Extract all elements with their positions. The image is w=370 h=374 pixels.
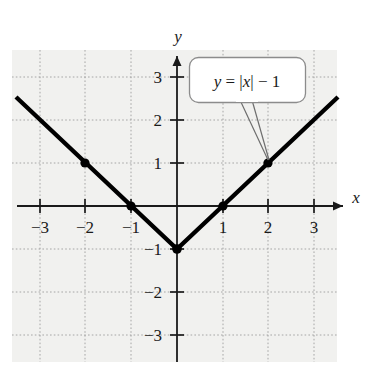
graph-figure: −3 −2 −1 1 2 3 3 2 1 −1 −2 −3 x y [0, 0, 370, 374]
x-axis-label: x [351, 188, 360, 207]
x-tick-label-1: 1 [219, 218, 228, 237]
equation-part-one: 1 [272, 72, 281, 91]
y-tick-label--2: −2 [144, 283, 162, 302]
y-tick-label--3: −3 [144, 326, 162, 345]
x-tick-label-3: 3 [310, 218, 319, 237]
y-tick-label--1: −1 [144, 240, 162, 259]
equation-part-minus: − [254, 72, 272, 91]
point-marker [172, 244, 182, 254]
x-tick-label--2: −2 [76, 218, 94, 237]
equation-part-equals: = [221, 72, 239, 91]
y-tick-label-3: 3 [154, 68, 163, 87]
y-tick-label-1: 1 [154, 154, 163, 173]
equation-part-y: y [212, 72, 222, 91]
x-tick-label--3: −3 [31, 218, 49, 237]
callout-tail-mask [236, 94, 258, 102]
x-tick-label-2: 2 [264, 218, 273, 237]
x-tick-label--1: −1 [122, 218, 140, 237]
absolute-value-graph: −3 −2 −1 1 2 3 3 2 1 −1 −2 −3 x y [0, 0, 370, 374]
point-marker [80, 158, 89, 167]
y-axis-label: y [172, 27, 182, 46]
point-marker [218, 201, 227, 210]
equation-label: y = |x| − 1 [212, 72, 281, 91]
point-marker [126, 201, 135, 210]
y-tick-label-2: 2 [154, 111, 163, 130]
